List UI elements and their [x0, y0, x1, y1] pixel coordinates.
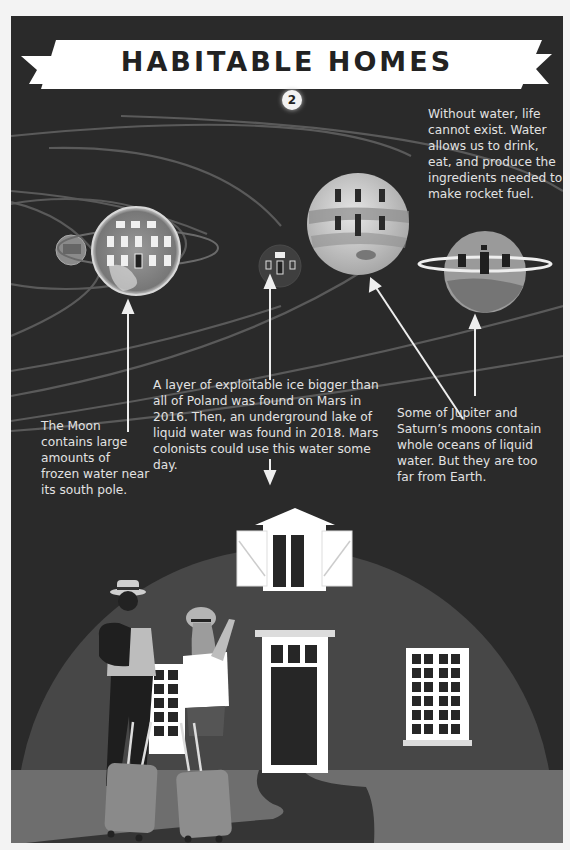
upper-window — [237, 508, 352, 591]
house-scene — [11, 16, 563, 843]
front-door — [255, 630, 335, 773]
right-window — [403, 648, 472, 746]
infographic-panel: HABITABLE HOMES 2 Without water, life ca… — [11, 16, 563, 843]
left-window — [149, 664, 185, 754]
